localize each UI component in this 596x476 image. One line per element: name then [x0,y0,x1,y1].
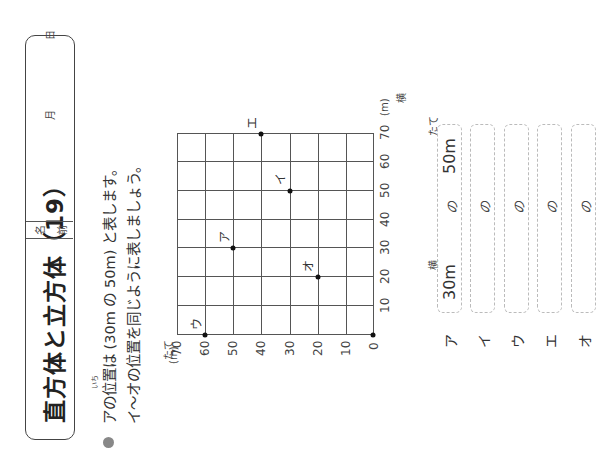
point-i-dot [287,188,292,193]
origin-dot [371,333,376,338]
bullet-icon [103,437,114,448]
row-label-i: イ [473,334,493,348]
instruction-line-1: アの位置は (30m の 50m) と表します。 [98,162,119,424]
name-label-1: 名 [32,225,47,235]
point-u-dot [203,333,208,338]
instruction-line-2: イ〜オの位置を同じように表しましょう。 [122,159,143,424]
answer-box-u[interactable]: の [504,124,529,313]
row-label-o: オ [574,334,594,348]
title-box: 直方体と立方体（19） 名 前 [25,35,75,440]
point-a-label: ア [215,231,232,243]
name-label-2: 前 [54,225,69,235]
name-label-cell: 名 前 [26,221,73,239]
row-label-e: エ [540,334,560,348]
answer-box-a[interactable]: 30m の 50m [437,124,462,313]
point-o-label: オ [299,260,316,272]
x-axis-name: 横 [393,93,408,103]
point-o-dot [315,275,320,280]
point-e-dot [259,132,264,137]
answer-box-e[interactable]: の [537,124,562,313]
answer-box-i[interactable]: の [470,124,495,313]
point-i-label: イ [271,173,288,185]
answer-a-tate: 50m [440,138,459,174]
point-a-dot [231,246,236,251]
row-label-u: ウ [507,334,527,348]
point-e-label: エ [243,117,260,129]
row-label-a: ア [440,334,460,348]
name-input-area[interactable] [26,36,73,221]
x-axis-unit: (m) [379,98,390,116]
answer-box-o[interactable]: の [571,124,596,313]
coordinate-grid: ア イ ウ エ オ [177,133,374,335]
answer-a-yoko: 30m [440,264,459,300]
point-u-label: ウ [187,318,204,330]
